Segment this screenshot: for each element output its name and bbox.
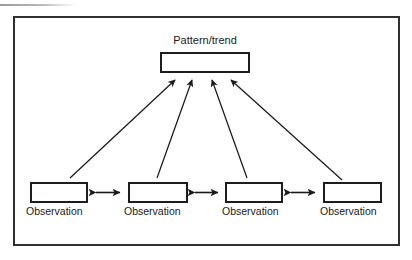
pattern-trend-box bbox=[160, 52, 250, 73]
observation-label: Observation bbox=[26, 205, 83, 218]
observation-label: Observation bbox=[124, 205, 181, 218]
observation-label: Observation bbox=[320, 205, 377, 218]
observation-label: Observation bbox=[222, 205, 279, 218]
diagram-root: Pattern/trend Observation Observation Ob… bbox=[0, 0, 412, 260]
arrow-observation-0-to-pattern bbox=[70, 80, 175, 178]
arrow-observation-1-to-pattern bbox=[157, 80, 192, 178]
arrow-observation-2-to-pattern bbox=[212, 80, 247, 178]
observation-box bbox=[323, 182, 382, 203]
arrow-observation-3-to-pattern bbox=[231, 80, 342, 180]
observation-box bbox=[225, 182, 283, 203]
pattern-trend-label: Pattern/trend bbox=[150, 34, 260, 47]
observation-box bbox=[30, 182, 88, 203]
observation-box bbox=[128, 182, 188, 203]
